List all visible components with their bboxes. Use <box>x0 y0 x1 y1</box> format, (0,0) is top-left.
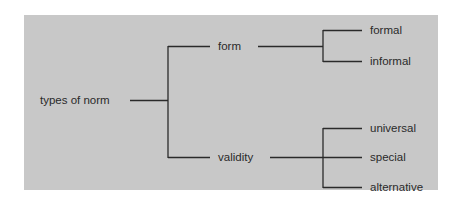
node-root: types of norm <box>40 93 110 107</box>
node-validity: validity <box>218 150 253 164</box>
node-form: form <box>218 39 241 53</box>
node-formal: formal <box>370 23 402 37</box>
node-informal: informal <box>370 54 411 68</box>
node-universal: universal <box>370 121 416 135</box>
node-alternative: alternative <box>370 180 423 194</box>
node-special: special <box>370 150 406 164</box>
